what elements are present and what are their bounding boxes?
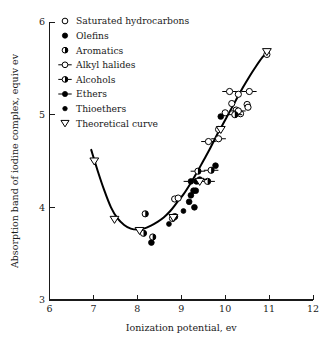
marker-half-filled-circle-with-horizontal-bar (58, 77, 71, 83)
marker-filled-circle (218, 114, 224, 120)
legend-label: Aromatics (75, 45, 124, 56)
x-tick-label: 8 (134, 303, 140, 314)
marker-open-circle (245, 104, 251, 110)
marker-half-filled-circle-with-horizontal-bar (191, 168, 206, 174)
marker-open-circle (62, 18, 68, 24)
marker-filled-circle (149, 240, 155, 246)
marker-open-down-triangle (90, 158, 99, 165)
series-theoretical-curve (90, 49, 271, 235)
marker-half-filled-circle (150, 234, 156, 240)
legend-item-alcohols: Alcohols (58, 74, 115, 85)
marker-filled-circle (186, 199, 192, 205)
marker-open-circle-with-horizontal-bar (222, 88, 237, 94)
legend-label: Alcohols (75, 74, 116, 85)
marker-half-filled-circle (142, 211, 148, 217)
legend-label: Saturated hydrocarbons (76, 15, 189, 26)
y-tick-label: 4 (39, 202, 45, 213)
marker-filled-circle-small (181, 209, 186, 214)
legend-label: Thioethers (76, 103, 126, 114)
marker-open-circle (175, 195, 181, 201)
marker-filled-circle (62, 33, 67, 38)
x-tick-label: 11 (263, 303, 275, 314)
marker-open-circle-with-horizontal-bar (58, 62, 71, 68)
legend-label: Theoretical curve (76, 118, 158, 129)
x-tick-label: 7 (90, 303, 96, 314)
theoretical-curve-path (91, 50, 269, 230)
legend-item-thioethers: Thioethers (63, 103, 127, 114)
series-alcohols (191, 112, 242, 185)
legend-item-theoretical-curve: Theoretical curve (61, 118, 158, 129)
marker-filled-circle-with-horizontal-bar (58, 91, 71, 96)
figure-container: 67891011123456 Saturated hydrocarbonsOle… (0, 0, 331, 342)
legend-label: Alkyl halides (75, 59, 136, 70)
marker-filled-circle (193, 188, 199, 194)
y-axis-title: Absorption band of iodine complex, equiv… (9, 53, 20, 269)
marker-open-circle (235, 91, 241, 97)
marker-open-circle (229, 100, 235, 106)
y-tick-label: 3 (39, 294, 45, 305)
y-tick-label: 5 (39, 109, 45, 120)
marker-half-filled-circle (62, 47, 68, 53)
x-axis-title: Ionization potential, ev (126, 322, 238, 333)
series-olefins (149, 114, 224, 246)
y-tick-label: 6 (39, 16, 45, 27)
data-points (90, 49, 271, 246)
marker-filled-circle (192, 204, 198, 210)
chart-legend: Saturated hydrocarbonsOlefinsAromaticsAl… (58, 15, 189, 128)
x-tick-label: 10 (219, 303, 231, 314)
legend-item-ethers: Ethers (58, 88, 107, 99)
legend-item-saturated-hydrocarbons: Saturated hydrocarbons (62, 15, 189, 26)
series-alkyl-halides (201, 88, 256, 144)
axis-titles: Ionization potential, evAbsorption band … (9, 53, 237, 333)
legend-label: Ethers (76, 88, 107, 99)
marker-filled-circle-small (167, 222, 172, 227)
x-tick-label: 6 (46, 303, 52, 314)
chart-canvas: 67891011123456 Saturated hydrocarbonsOle… (0, 0, 331, 342)
legend-item-alkyl-halides: Alkyl halides (58, 59, 135, 70)
legend-label: Olefins (76, 30, 109, 41)
marker-open-circle-with-horizontal-bar (242, 88, 257, 94)
legend-item-olefins: Olefins (62, 30, 109, 41)
x-tick-label: 12 (307, 303, 319, 314)
marker-filled-circle-small (63, 106, 67, 110)
x-tick-label: 9 (178, 303, 184, 314)
marker-open-down-triangle (61, 120, 69, 126)
legend-item-aromatics: Aromatics (62, 45, 123, 56)
